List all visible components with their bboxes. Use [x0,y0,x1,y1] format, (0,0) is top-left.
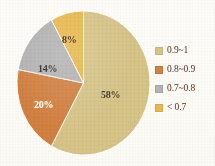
legend-item-1[interactable]: 0.8~0.9 [155,60,213,79]
slice-label-2: 14% [38,63,57,74]
slice-label-0: 58% [101,89,120,100]
legend-swatch-icon-3 [155,104,163,112]
legend-item-0[interactable]: 0.9~1 [155,41,213,60]
legend-label-2: 0.7~0.8 [167,84,195,94]
legend-item-2[interactable]: 0.7~0.8 [155,79,213,98]
legend-item-3[interactable]: < 0.7 [155,98,213,117]
slice-label-3: 8% [62,34,77,45]
chart-legend: 0.9~1 0.8~0.9 0.7~0.8 < 0.7 [155,41,213,117]
legend-label-0: 0.9~1 [167,46,188,56]
slice-label-1: 20% [34,99,53,110]
legend-label-1: 0.8~0.9 [167,65,195,75]
pie-chart-plot-area: 58% 20% 14% 8% [17,11,150,155]
legend-label-3: < 0.7 [167,103,186,113]
pie-chart-figure: 58% 20% 14% 8% 0.9~1 0.8~0.9 0.7~0.8 < 0… [0,0,215,166]
legend-swatch-icon-0 [155,47,163,55]
legend-swatch-icon-2 [155,85,163,93]
pie-chart-svg [17,11,150,155]
legend-swatch-icon-1 [155,66,163,74]
